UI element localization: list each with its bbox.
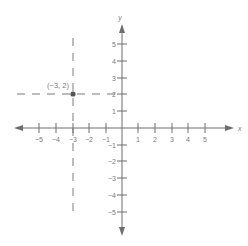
y-tick-label: 4	[112, 58, 116, 65]
y-axis-up-arrow-icon	[119, 24, 125, 33]
x-tick-label: −3	[69, 136, 77, 143]
x-axis-right-arrow-icon	[225, 125, 234, 131]
x-tick-label: −2	[85, 136, 93, 143]
y-tick-label: 3	[112, 75, 116, 82]
y-tick-label: −3	[108, 175, 116, 182]
coordinate-plane: −5 −4 −3 −2 −1 1 2 3 4 5 5 4 3 2 1 −1 −2…	[0, 0, 248, 246]
y-tick-label: −5	[108, 209, 116, 216]
y-tick-label: −4	[108, 192, 116, 199]
y-tick-label: 5	[112, 41, 116, 48]
x-axis-left-arrow-icon	[14, 125, 23, 131]
y-tick-label: −2	[108, 158, 116, 165]
y-axis-down-arrow-icon	[119, 227, 125, 236]
x-tick-label: 3	[170, 136, 174, 143]
y-tick-label: −1	[108, 142, 116, 149]
x-tick-label: 1	[136, 136, 140, 143]
x-tick-label: 4	[186, 136, 190, 143]
x-axis-label: x	[237, 125, 242, 132]
point-label: (−3, 2)	[47, 81, 69, 90]
x-tick-label: −5	[35, 136, 43, 143]
y-tick-label: 2	[112, 91, 116, 98]
x-tick-label: 5	[203, 136, 207, 143]
plotted-point	[70, 91, 75, 96]
x-tick-label: 2	[153, 136, 157, 143]
x-tick-label: −4	[52, 136, 60, 143]
y-axis-label: y	[117, 14, 122, 22]
x-tick-labels: −5 −4 −3 −2 −1 1 2 3 4 5	[35, 136, 207, 143]
y-tick-label: 1	[112, 108, 116, 115]
